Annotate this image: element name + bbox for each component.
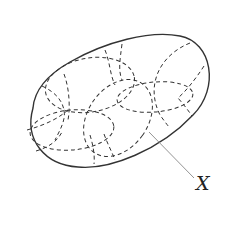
space-boundary — [31, 34, 209, 167]
open-set-2 — [28, 106, 115, 153]
open-cover-sets — [27, 43, 204, 170]
open-set-1 — [41, 51, 139, 120]
label-leader-line — [149, 132, 194, 178]
space-label-x: X — [196, 174, 210, 193]
open-set-12 — [90, 135, 94, 164]
open-set-7 — [120, 44, 122, 80]
open-set-6 — [105, 50, 115, 85]
open-set-5b — [178, 66, 204, 116]
